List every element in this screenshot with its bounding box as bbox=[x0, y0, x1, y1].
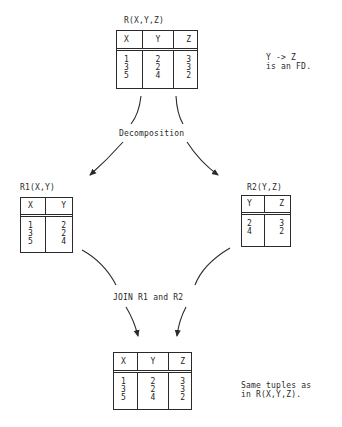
decomp-right-arrow bbox=[187, 142, 218, 175]
header-z: Z bbox=[174, 31, 197, 48]
column-x-values: 1 3 5 bbox=[117, 51, 143, 88]
header-z: Z bbox=[169, 353, 191, 370]
header-x: X bbox=[117, 31, 143, 48]
column-y-values: 2 2 4 bbox=[46, 217, 72, 252]
decomp-right-upper-line bbox=[176, 96, 183, 124]
fd-note-line1: Y -> Z bbox=[266, 53, 296, 62]
header-y: Y bbox=[138, 353, 168, 370]
column-z-values: 3 3 2 bbox=[174, 51, 197, 88]
column-y-values: 2 2 4 bbox=[138, 373, 168, 409]
header-x: X bbox=[21, 198, 46, 214]
join-right-arrow bbox=[177, 307, 186, 336]
joined-result-table: X Y Z 1 3 5 2 2 4 3 3 2 bbox=[113, 352, 192, 410]
decomp-left-upper-line bbox=[131, 96, 141, 124]
same-tuples-note-line1: Same tuples as bbox=[241, 381, 311, 390]
relation-r2-label: R2(Y,Z) bbox=[247, 183, 282, 192]
relation-r-table: X Y Z 1 3 5 2 2 4 3 3 2 bbox=[116, 30, 198, 89]
fd-note-line2: is an FD. bbox=[266, 62, 311, 71]
header-y: Y bbox=[242, 196, 265, 212]
relation-r1-table: X Y 1 3 5 2 2 4 bbox=[20, 197, 73, 253]
join-left-arrow bbox=[126, 307, 138, 336]
decomposition-label: Decomposition bbox=[119, 129, 184, 138]
column-y-values: 2 4 bbox=[242, 215, 265, 246]
header-x: X bbox=[114, 353, 138, 370]
column-x-values: 1 3 5 bbox=[114, 373, 138, 409]
header-z: Z bbox=[265, 196, 290, 212]
decomp-left-arrow bbox=[90, 142, 123, 175]
header-y: Y bbox=[143, 31, 173, 48]
column-z-values: 3 2 bbox=[265, 215, 290, 246]
join-left-upper-line bbox=[82, 250, 116, 285]
relation-r1-label: R1(X,Y) bbox=[20, 183, 55, 192]
column-x-values: 1 3 5 bbox=[21, 217, 46, 252]
column-z-values: 3 3 2 bbox=[169, 373, 191, 409]
join-label: JOIN R1 and R2 bbox=[113, 293, 183, 302]
relation-r2-table: Y Z 2 4 3 2 bbox=[241, 195, 291, 247]
relation-r-label: R(X,Y,Z) bbox=[124, 16, 164, 25]
column-y-values: 2 2 4 bbox=[143, 51, 173, 88]
header-y: Y bbox=[46, 198, 72, 214]
join-right-upper-line bbox=[195, 248, 230, 285]
same-tuples-note-line2: in R(X,Y,Z). bbox=[241, 390, 301, 399]
